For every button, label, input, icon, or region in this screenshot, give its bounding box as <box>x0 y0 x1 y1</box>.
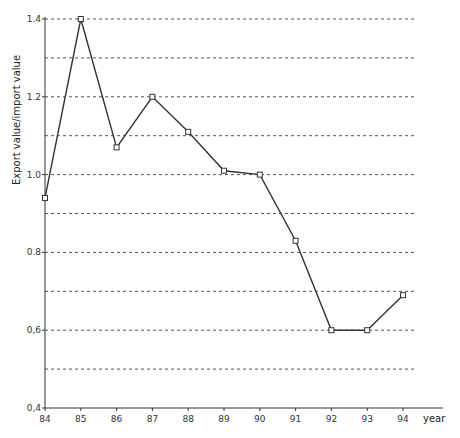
y-tick-label: 1.0 <box>27 170 42 180</box>
data-point-marker <box>293 238 298 243</box>
data-point-marker <box>222 168 227 173</box>
y-tick-label: 1.2 <box>27 92 41 102</box>
data-point-marker <box>329 328 334 333</box>
x-tick-label: 86 <box>111 414 123 424</box>
x-tick-label: 90 <box>254 414 266 424</box>
x-tick-label: 94 <box>397 414 409 424</box>
y-tick-label: 0,4 <box>27 403 42 413</box>
x-axis-title: year <box>423 413 446 424</box>
data-point-marker <box>150 94 155 99</box>
data-point-marker <box>365 328 370 333</box>
series-line <box>45 19 403 330</box>
axes <box>45 17 443 408</box>
x-tick-label: 85 <box>75 414 86 424</box>
line-chart: 0,40,60.81.01.21.4 848586878889909192939… <box>0 0 460 438</box>
y-tick-label: 0,6 <box>27 325 42 335</box>
y-axis-title: Export value/import value <box>11 55 22 185</box>
gridlines <box>45 19 415 369</box>
x-tick-label: 88 <box>182 414 194 424</box>
x-tick-label: 87 <box>147 414 158 424</box>
y-tick-label: 1.4 <box>27 14 42 24</box>
data-point-marker <box>78 17 83 22</box>
x-tick-label: 92 <box>326 414 337 424</box>
x-tick-label: 91 <box>290 414 301 424</box>
y-tick-label: 0.8 <box>27 247 42 257</box>
data-point-marker <box>43 195 48 200</box>
x-tick-labels: 8485868788899091929394 <box>39 408 409 424</box>
data-point-marker <box>257 172 262 177</box>
data-point-marker <box>186 129 191 134</box>
x-tick-label: 93 <box>361 414 372 424</box>
data-point-marker <box>401 293 406 298</box>
x-tick-label: 84 <box>39 414 51 424</box>
y-tick-labels: 0,40,60.81.01.21.4 <box>27 14 45 413</box>
x-tick-label: 89 <box>218 414 230 424</box>
data-point-marker <box>114 145 119 150</box>
